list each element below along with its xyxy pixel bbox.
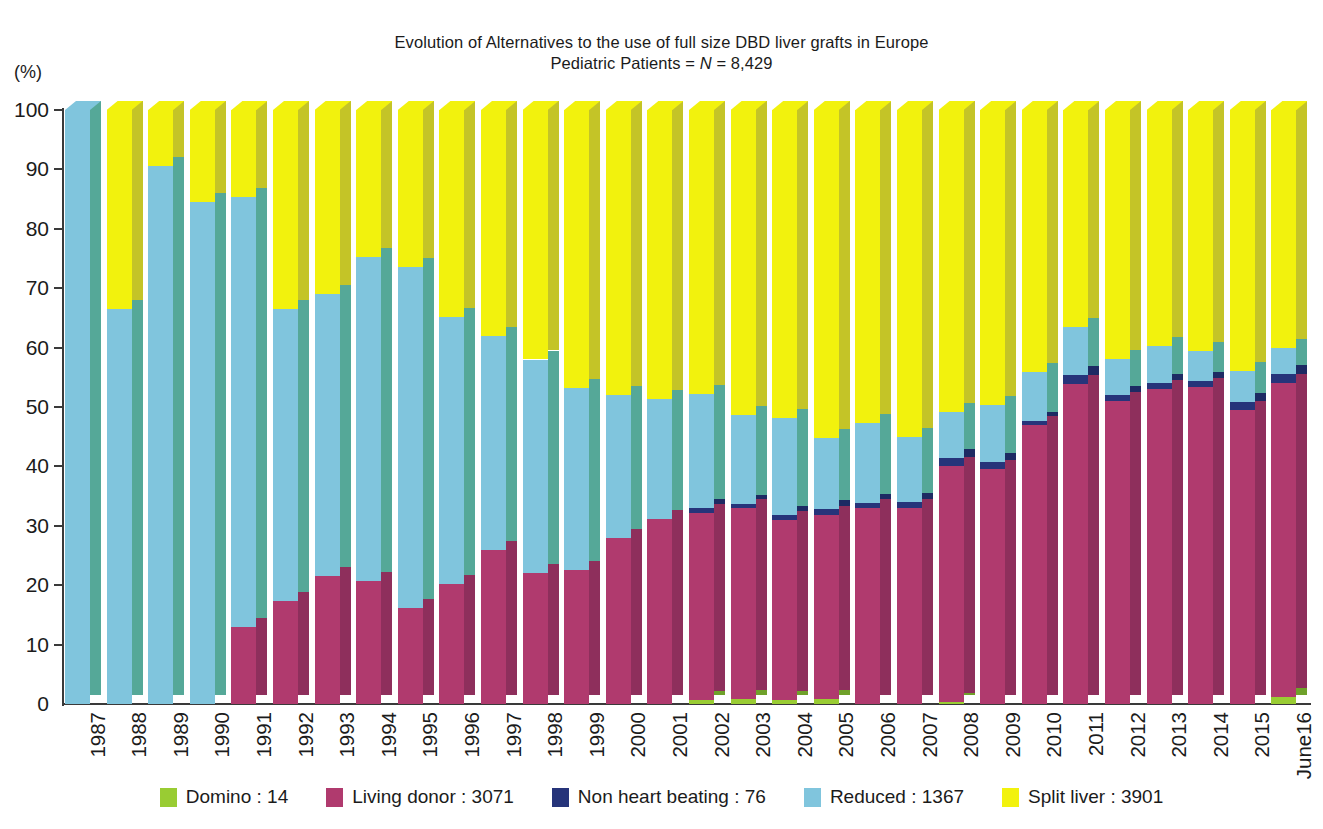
bar-2013[interactable] (1147, 110, 1172, 704)
bar-2000[interactable] (606, 110, 631, 704)
bar-1995[interactable] (398, 110, 423, 704)
bar-1989[interactable] (148, 110, 173, 704)
bar-segment-split-liver (356, 110, 381, 257)
bar-segment-living-donor (315, 576, 340, 704)
x-label-1998: 1998 (543, 712, 567, 758)
bar-2007[interactable] (897, 110, 922, 704)
bar-side-segment (1130, 350, 1141, 386)
bar-side-segment (423, 101, 434, 258)
bar-2008[interactable] (939, 110, 964, 704)
x-label-1996: 1996 (460, 712, 484, 758)
bar-segment-split-liver (523, 110, 548, 359)
x-label-1987: 1987 (86, 712, 110, 758)
legend-item-reduced[interactable]: Reduced : 1367 (804, 786, 964, 808)
bar-front-face (772, 110, 797, 704)
bar-side-segment (922, 101, 933, 428)
bar-2006[interactable] (855, 110, 880, 704)
bar-side-segment (1213, 101, 1224, 342)
bar-segment-split-liver (231, 110, 256, 197)
x-label-2012: 2012 (1126, 712, 1150, 758)
bar-segment-split-liver (1230, 110, 1255, 371)
bar-segment-reduced (1188, 351, 1213, 382)
bar-June16[interactable] (1271, 110, 1296, 704)
x-label-1997: 1997 (502, 712, 526, 758)
bar-segment-living-donor (1188, 387, 1213, 704)
bar-side-segment (1213, 378, 1224, 695)
bar-side-segment (340, 567, 351, 695)
bar-side-segment (1130, 392, 1141, 695)
bar-segment-living-donor (980, 469, 1005, 704)
bar-segment-reduced (939, 412, 964, 458)
x-label-2009: 2009 (1001, 712, 1025, 758)
bar-1993[interactable] (315, 110, 340, 704)
bar-1998[interactable] (523, 110, 548, 704)
bar-2001[interactable] (647, 110, 672, 704)
bar-segment-living-donor (689, 513, 714, 700)
bar-side-segment (423, 258, 434, 598)
bar-side-segment (548, 351, 559, 565)
bar-segment-reduced (273, 309, 298, 601)
bar-2012[interactable] (1105, 110, 1130, 704)
bar-side-face (1047, 101, 1058, 695)
bar-1994[interactable] (356, 110, 381, 704)
bar-segment-non-heart-beating (1271, 374, 1296, 384)
bar-2009[interactable] (980, 110, 1005, 704)
y-tick-mark (54, 584, 63, 586)
bar-side-segment (506, 327, 517, 541)
x-label-1990: 1990 (210, 712, 234, 758)
bar-1991[interactable] (231, 110, 256, 704)
x-label-1994: 1994 (377, 712, 401, 758)
bar-1996[interactable] (439, 110, 464, 704)
bar-segment-split-liver (107, 110, 132, 309)
bar-side-segment (631, 386, 642, 529)
bar-segment-living-donor (523, 573, 548, 704)
bar-segment-living-donor (273, 601, 298, 704)
bar-2004[interactable] (772, 110, 797, 704)
bar-1990[interactable] (190, 110, 215, 704)
y-tick-label: 90 (26, 157, 49, 181)
bar-1988[interactable] (107, 110, 132, 704)
bar-segment-domino (772, 700, 797, 704)
bar-side-segment (756, 495, 767, 499)
y-tick-label: 60 (26, 336, 49, 360)
legend-label-domino: Domino : 14 (186, 786, 288, 808)
bar-2005[interactable] (814, 110, 839, 704)
bar-1997[interactable] (481, 110, 506, 704)
bar-side-segment (1088, 101, 1099, 318)
legend-label-non_heart_beating: Non heart beating : 76 (578, 786, 766, 808)
chart-legend: Domino : 14Living donor : 3071Non heart … (0, 786, 1323, 808)
bar-2003[interactable] (731, 110, 756, 704)
legend-swatch-split_liver (1002, 788, 1019, 807)
bar-side-segment (1005, 460, 1016, 695)
bar-2014[interactable] (1188, 110, 1213, 704)
bar-side-face (1172, 101, 1183, 695)
bar-side-segment (631, 101, 642, 386)
bar-side-segment (880, 499, 891, 695)
bar-segment-living-donor (897, 508, 922, 704)
subtitle-n-symbol: N (700, 54, 712, 72)
bar-2010[interactable] (1022, 110, 1047, 704)
chart-page: Evolution of Alternatives to the use of … (0, 0, 1323, 829)
bar-1999[interactable] (564, 110, 589, 704)
legend-item-living_donor[interactable]: Living donor : 3071 (326, 786, 514, 808)
bar-side-segment (1130, 101, 1141, 350)
legend-item-split_liver[interactable]: Split liver : 3901 (1002, 786, 1163, 808)
x-label-2014: 2014 (1209, 712, 1233, 758)
legend-item-non_heart_beating[interactable]: Non heart beating : 76 (552, 786, 766, 808)
bar-segment-reduced (1022, 372, 1047, 421)
bar-side-segment (381, 248, 392, 572)
x-label-2011: 2011 (1084, 712, 1108, 756)
y-tick-label: 40 (26, 454, 49, 478)
bar-side-segment (922, 493, 933, 499)
bar-side-face (298, 101, 309, 695)
bar-2015[interactable] (1230, 110, 1255, 704)
legend-item-domino[interactable]: Domino : 14 (160, 786, 288, 808)
bar-2011[interactable] (1063, 110, 1088, 704)
bar-segment-split-liver (1022, 110, 1047, 372)
bar-segment-non-heart-beating (1063, 375, 1088, 385)
y-tick-mark (54, 406, 63, 408)
bar-1987[interactable] (65, 110, 90, 704)
bar-1992[interactable] (273, 110, 298, 704)
bar-segment-living-donor (731, 508, 756, 699)
bar-2002[interactable] (689, 110, 714, 704)
